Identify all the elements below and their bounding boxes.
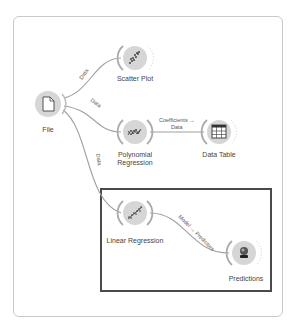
link-file-poly[interactable] [64, 106, 121, 132]
node-linear-regression[interactable] [118, 201, 153, 225]
node-file[interactable] [35, 91, 66, 117]
node-label-linear-regression: Linear Regression [107, 237, 164, 245]
node-label-predictions: Predictions [229, 275, 264, 283]
node-predictions[interactable] [227, 241, 262, 265]
link-label-poly-table-2: Data [171, 124, 184, 130]
node-data-table[interactable] [202, 120, 237, 144]
link-label-poly-table-1: Coefficients → [159, 117, 195, 123]
node-polynomial-regression[interactable] [118, 120, 153, 144]
predictions-icon [240, 247, 248, 258]
node-label-data-table: Data Table [202, 151, 235, 159]
workflow-canvas[interactable]: Data Data Data Coefficients → Data Model… [0, 0, 297, 326]
node-label-file: File [42, 126, 53, 134]
link-label-file-linreg: Data [95, 153, 103, 166]
link-label-file-poly: Data [89, 97, 103, 109]
node-label-polynomial-regression-1: Polynomial [118, 151, 152, 159]
node-label-scatter-plot: Scatter Plot [117, 75, 153, 83]
link-file-linreg[interactable] [63, 110, 121, 213]
node-scatter-plot[interactable] [118, 46, 154, 70]
link-label-file-scatter: Data [78, 67, 90, 81]
file-icon [43, 97, 54, 111]
link-file-scatter[interactable] [64, 58, 121, 98]
node-label-polynomial-regression-2: Regression [117, 159, 152, 167]
link-linreg-pred[interactable] [150, 213, 229, 253]
data-table-icon [212, 125, 226, 138]
link-label-linreg-pred: Model → Predictors [177, 213, 216, 252]
